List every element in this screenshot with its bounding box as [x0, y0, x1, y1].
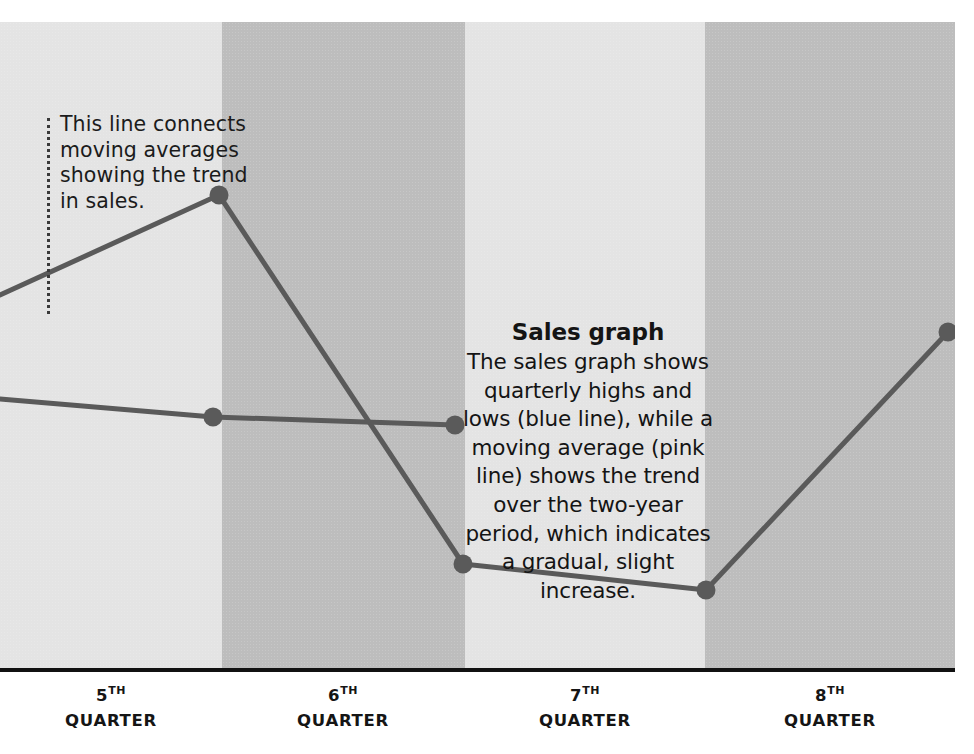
tick-number: 8 [815, 686, 827, 705]
x-axis-line [0, 668, 955, 672]
series-path [0, 399, 455, 425]
tick-unit-label: QUARTER [21, 708, 201, 733]
annotation-body: The sales graph shows quarterly highs an… [462, 348, 714, 605]
tick-number: 7 [570, 686, 582, 705]
sales-graph-annotation: Sales graph The sales graph shows quarte… [462, 318, 714, 605]
series-moving-average-line [0, 399, 465, 435]
tick-unit-label: QUARTER [253, 708, 433, 733]
x-tick-6th: 6THQUARTER [253, 678, 433, 733]
x-tick-7th: 7THQUARTER [495, 678, 675, 733]
tick-ordinal-suffix: TH [582, 684, 600, 697]
tick-ordinal-suffix: TH [108, 684, 126, 697]
x-tick-8th: 8THQUARTER [740, 678, 920, 733]
sales-graph-figure: This line connects moving averages showi… [0, 0, 974, 754]
x-tick-5th: 5THQUARTER [21, 678, 201, 733]
tick-unit-label: QUARTER [495, 708, 675, 733]
tick-ordinal-suffix: TH [340, 684, 358, 697]
tick-unit-label: QUARTER [740, 708, 920, 733]
data-point-marker [204, 408, 223, 427]
annotation-title: Sales graph [462, 318, 714, 347]
tick-ordinal-suffix: TH [827, 684, 845, 697]
tick-number: 6 [328, 686, 340, 705]
tick-number: 5 [96, 686, 108, 705]
plot-area: This line connects moving averages showi… [0, 22, 955, 670]
callout-leader-line [47, 118, 50, 314]
x-axis-tick-labels: 5THQUARTER6THQUARTER7THQUARTER8THQUARTER [0, 678, 955, 754]
moving-average-callout-text: This line connects moving averages showi… [60, 112, 250, 214]
